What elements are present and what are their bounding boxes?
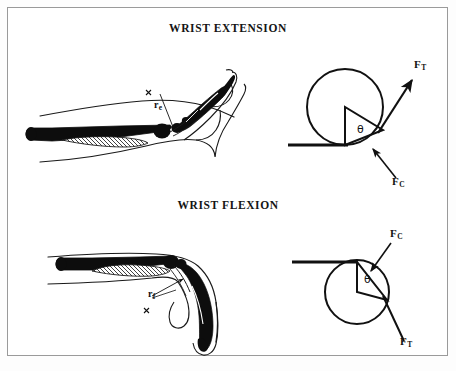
angle-label-flexion: θ <box>364 274 371 285</box>
figure-root: WRIST EXTENSION WRIST FLEXION <box>0 0 456 371</box>
moment-arm-label-extension: re <box>154 100 162 111</box>
moment-arm-label-flexion: rf <box>148 289 155 300</box>
contact-force-label-flexion: FC <box>390 228 403 240</box>
tendon-force-label-flexion: FT <box>400 336 412 348</box>
panel-title-wrist-extension: WRIST EXTENSION <box>0 22 456 34</box>
contact-force-label-extension: FC <box>392 176 405 188</box>
angle-label-extension: θ <box>357 124 364 135</box>
panel-title-wrist-flexion: WRIST FLEXION <box>0 199 456 211</box>
tendon-force-label-extension: FT <box>414 59 426 71</box>
figure-border <box>7 7 448 356</box>
